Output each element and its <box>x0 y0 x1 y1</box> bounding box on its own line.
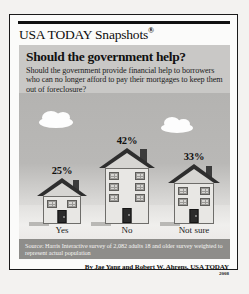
masthead-brand: USA TODAY Snapshots® <box>19 26 233 43</box>
house-icon <box>168 164 220 224</box>
masthead-rule <box>18 21 230 24</box>
window-row <box>175 198 213 206</box>
roof-inner-icon <box>43 183 81 196</box>
value-label-no: 42% <box>92 135 162 146</box>
brand-text: USA TODAY Snapshots <box>19 27 148 42</box>
window-row <box>106 194 148 202</box>
window-icon <box>200 187 210 195</box>
value-label-yes: 25% <box>29 165 95 176</box>
category-label-no: No <box>92 225 162 235</box>
window-icon <box>178 187 188 195</box>
window-icon <box>135 183 145 191</box>
chart-area: 25% Yes 4 <box>19 93 230 239</box>
infographic-frame: USA TODAY Snapshots® Should the governme… <box>9 14 238 270</box>
window-icon <box>200 198 210 206</box>
cloud-icon <box>39 117 73 128</box>
roof-inner-icon <box>174 169 214 183</box>
category-label-yes: Yes <box>29 225 95 235</box>
question-panel: Should the government help? Should the g… <box>19 45 230 93</box>
house-body <box>174 183 214 224</box>
window-icon <box>109 194 119 202</box>
bar-group-yes: 25% Yes <box>29 165 95 235</box>
snapshot-infographic: USA TODAY Snapshots® Should the governme… <box>0 0 249 294</box>
page-title: Should the government help? <box>26 49 223 64</box>
window-icon <box>67 200 77 208</box>
byline: By Jae Yang and Robert W. Ahrens, USA TO… <box>29 263 229 271</box>
bar-group-no: 42% <box>92 135 162 235</box>
cloud-icon <box>161 123 193 133</box>
value-label-not-sure: 33% <box>161 151 227 162</box>
window-icon <box>109 172 119 180</box>
door-icon <box>58 210 67 223</box>
window-row <box>106 183 148 191</box>
house-body <box>43 196 81 224</box>
window-icon <box>178 198 188 206</box>
roof-inner-icon <box>105 153 149 168</box>
door-icon <box>123 208 132 223</box>
door-icon <box>190 209 199 223</box>
bar-group-not-sure: 33% <box>161 151 227 235</box>
source-text: Source: Harris Interactive survey of 2,0… <box>25 242 224 257</box>
window-icon <box>135 172 145 180</box>
question-subtitle: Should the government provide financial … <box>26 66 223 94</box>
window-row <box>44 200 80 208</box>
registered-mark-icon: ® <box>148 26 154 35</box>
house-icon <box>37 178 87 224</box>
category-label-not-sure: Not sure <box>161 225 227 235</box>
year-label: 2008 <box>219 271 229 276</box>
window-icon <box>135 194 145 202</box>
window-icon <box>47 200 57 208</box>
house-body <box>105 168 149 224</box>
window-row <box>106 172 148 180</box>
source-band: Source: Harris Interactive survey of 2,0… <box>19 239 230 259</box>
window-row <box>175 187 213 195</box>
house-icon <box>99 148 155 224</box>
window-icon <box>109 183 119 191</box>
